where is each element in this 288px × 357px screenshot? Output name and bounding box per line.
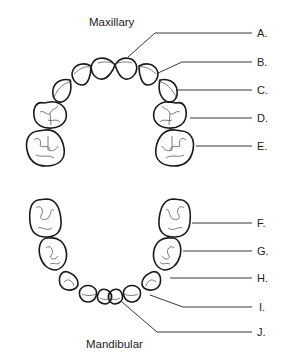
lower-first-molar-right [153,238,180,270]
leader-line-a [128,33,252,57]
upper-second-molar-right [156,130,194,166]
label-g: G. [257,246,269,257]
label-h: H. [257,273,268,284]
lower-canine-left [59,272,77,290]
leader-line-j [122,302,252,332]
upper-canine-left [53,79,71,102]
upper-canine-right [159,79,177,102]
lower-central-incisor-right [108,289,122,304]
leader-line-b [158,62,252,73]
label-c: C. [257,85,268,96]
lower-lateral-incisor-right [123,286,140,303]
maxillary-arch [26,58,193,166]
label-j: J. [257,327,266,338]
label-f: F. [257,218,266,229]
label-a: A. [257,28,267,39]
leader-line-i [150,295,252,307]
lower-canine-right [142,272,160,290]
mandibular-arch [30,199,191,304]
label-d: D. [257,113,268,124]
dental-arch-diagram [0,0,288,357]
lower-first-molar-left [39,238,66,270]
upper-second-molar-left [26,130,64,166]
upper-central-incisor-right [115,58,137,79]
label-i: I. [259,302,265,313]
lower-second-molar-right [159,199,190,237]
lower-lateral-incisor-left [79,286,96,303]
upper-central-incisor-left [91,58,115,79]
label-e: E. [257,141,267,152]
lower-second-molar-left [30,199,61,237]
label-b: B. [257,57,267,68]
